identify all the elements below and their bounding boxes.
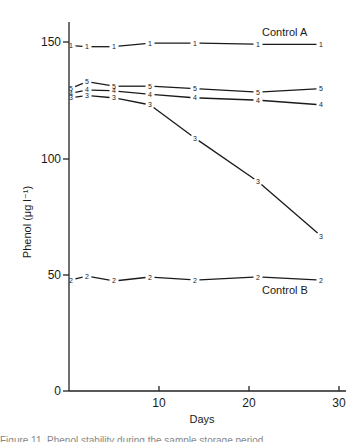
data-point-marker: 1 xyxy=(112,43,116,50)
x-tick-label-20: 20 xyxy=(242,396,256,410)
y-tick-label-0: 0 xyxy=(54,384,61,398)
data-point-marker: 2 xyxy=(148,274,152,281)
series-5-segment xyxy=(200,89,254,92)
data-point-marker: 5 xyxy=(112,83,116,90)
data-point-marker: 1 xyxy=(148,40,152,47)
series-2-segment xyxy=(119,278,146,281)
data-point-marker: 5 xyxy=(319,85,323,92)
series-2: 2222222 xyxy=(69,273,323,285)
y-tick-label-150: 150 xyxy=(41,35,61,49)
series-2-segment xyxy=(155,277,191,279)
data-point-marker: 1 xyxy=(85,43,89,50)
data-point-marker: 4 xyxy=(319,101,323,108)
data-point-marker: 1 xyxy=(319,41,323,48)
series-5-segment xyxy=(155,86,191,88)
data-point-marker: 2 xyxy=(256,274,260,281)
y-tick-label-50: 50 xyxy=(48,268,62,282)
x-ticks: 10 20 30 xyxy=(152,386,346,410)
series-layer: 11111112222222333333344444445555555 xyxy=(69,40,323,285)
data-point-marker: 5 xyxy=(85,78,89,85)
control-b-label: Control B xyxy=(262,284,308,296)
figure-caption: Figure 11. Phenol stability during the s… xyxy=(0,432,364,442)
data-point-marker: 2 xyxy=(69,277,73,284)
data-point-marker: 5 xyxy=(148,83,152,90)
data-point-marker: 1 xyxy=(193,40,197,47)
data-point-marker: 3 xyxy=(319,233,323,240)
series-2-segment xyxy=(91,277,109,280)
series-1-segment xyxy=(119,44,146,47)
series-4-segment xyxy=(263,101,317,105)
data-point-marker: 4 xyxy=(256,97,260,104)
series-5-segment xyxy=(263,89,317,92)
data-point-marker: 4 xyxy=(85,86,89,93)
series-1-segment xyxy=(76,46,83,47)
data-point-marker: 3 xyxy=(193,135,197,142)
data-point-marker: 2 xyxy=(193,277,197,284)
data-point-marker: 5 xyxy=(256,89,260,96)
data-point-marker: 2 xyxy=(85,273,89,280)
data-point-marker: 2 xyxy=(112,277,116,284)
series-1-segment xyxy=(200,43,254,44)
series-5-segment xyxy=(75,83,83,86)
series-3-segment xyxy=(261,185,317,234)
data-point-marker: 3 xyxy=(256,178,260,185)
series-5: 5555555 xyxy=(69,78,323,95)
series-4-segment xyxy=(92,90,110,91)
series-3-segment xyxy=(92,96,110,98)
data-point-marker: 1 xyxy=(69,42,73,49)
series-3-segment xyxy=(154,108,192,136)
series-4-segment xyxy=(200,98,254,100)
series-4-segment xyxy=(119,91,146,94)
x-axis-title: Days xyxy=(189,413,215,425)
series-3: 3333333 xyxy=(69,92,323,240)
data-point-marker: 1 xyxy=(256,41,260,48)
series-5-segment xyxy=(91,82,109,85)
control-a-label: Control A xyxy=(262,26,308,38)
series-3-segment xyxy=(76,96,83,97)
series-2-segment xyxy=(75,277,82,279)
phenol-line-chart: 0 50 100 150 10 20 30 Days Phenol (μg l⁻… xyxy=(0,0,364,442)
x-tick-label-30: 30 xyxy=(332,396,346,410)
series-3-segment xyxy=(199,141,255,179)
data-point-marker: 5 xyxy=(193,85,197,92)
data-point-marker: 4 xyxy=(193,94,197,101)
series-3-segment xyxy=(118,99,145,104)
series-4-segment xyxy=(75,91,82,93)
data-point-marker: 3 xyxy=(148,101,152,108)
data-point-marker: 3 xyxy=(112,94,116,101)
data-point-marker: 5 xyxy=(69,85,73,92)
series-1: 1111111 xyxy=(69,40,323,51)
series-2-segment xyxy=(200,277,254,280)
series-4-segment xyxy=(155,95,191,98)
x-tick-label-10: 10 xyxy=(152,396,166,410)
data-point-marker: 2 xyxy=(319,277,323,284)
series-2-segment xyxy=(263,277,317,280)
data-point-marker: 4 xyxy=(148,91,152,98)
y-tick-label-100: 100 xyxy=(41,152,61,166)
y-ticks: 0 50 100 150 xyxy=(41,35,69,398)
y-axis-title: Phenol (μg l⁻¹) xyxy=(21,186,33,258)
